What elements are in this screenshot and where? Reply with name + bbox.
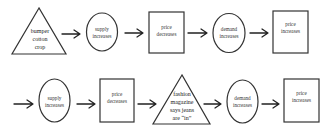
arrow-right	[250, 29, 268, 37]
node-label: cotton	[33, 36, 48, 42]
node-fashion-magazine: fashion magazine says jeans are “in”	[153, 75, 210, 124]
node-supply-increases: supply increases	[39, 79, 70, 122]
node-bumper-cotton-crop: bumper cotton crop	[12, 8, 66, 54]
node-label: supply	[48, 95, 62, 101]
node-price-decreases: price decreases	[100, 79, 134, 122]
node-label: are “in”	[173, 115, 192, 121]
node-label: increases	[219, 33, 238, 39]
arrow-icon	[14, 100, 33, 108]
node-label: price	[285, 21, 296, 27]
node-price-increases: price increases	[284, 79, 319, 122]
arrow-right	[262, 100, 279, 108]
arrow-right	[125, 29, 143, 37]
arrow-icon	[62, 30, 80, 38]
arrow-right	[204, 100, 221, 108]
arrow-icon	[188, 29, 207, 37]
arrow-right	[77, 100, 95, 108]
node-label: crop	[35, 44, 46, 50]
node-label: magazine	[171, 99, 194, 105]
node-label: increases	[45, 102, 64, 108]
node-label: decreases	[157, 31, 177, 37]
arrow-icon	[262, 100, 279, 108]
node-label: price	[112, 91, 123, 97]
arrow-icon	[250, 29, 268, 37]
node-label: fashion	[173, 91, 191, 97]
arrow-right	[62, 30, 80, 38]
node-label: supply	[95, 26, 109, 32]
arrow-right-start	[14, 100, 33, 108]
node-demand-increases: demand increases	[213, 14, 245, 53]
arrow-icon	[125, 29, 143, 37]
node-label: price	[296, 90, 307, 96]
node-label: increases	[292, 97, 311, 103]
node-label: bumper	[31, 28, 49, 34]
node-label: increases	[92, 33, 111, 39]
ellipse-shape	[87, 13, 118, 51]
node-label: demand	[221, 26, 238, 32]
arrow-icon	[77, 100, 95, 108]
node-label: price	[161, 24, 172, 30]
node-price-decreases: price decreases	[149, 12, 184, 53]
node-price-increases: price increases	[273, 11, 308, 53]
node-label: increases	[281, 28, 300, 34]
arrow-right	[138, 100, 156, 108]
node-label: demand	[234, 95, 251, 101]
node-label: increases	[233, 102, 252, 108]
arrow-icon	[204, 100, 221, 108]
node-demand-increases: demand increases	[227, 80, 258, 123]
arrow-right	[188, 29, 207, 37]
node-supply-increases: supply increases	[87, 13, 118, 51]
node-label: says jeans	[170, 107, 195, 113]
arrow-icon	[138, 100, 156, 108]
supply-demand-flow-diagram: bumper cotton crop supply increases pric…	[0, 0, 332, 128]
node-label: decreases	[107, 98, 127, 104]
